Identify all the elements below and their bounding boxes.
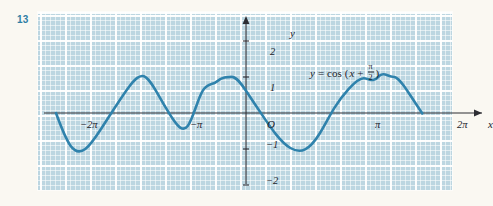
plot-area <box>38 12 452 190</box>
equation-fraction-numerator: π <box>368 63 374 71</box>
equation-equals: = <box>318 67 324 79</box>
y-tick-label-2: 2 <box>270 47 275 58</box>
equation-function: cos <box>327 67 342 79</box>
y-tick-label-neg-1: −1 <box>266 140 278 151</box>
y-axis-label: y <box>290 28 295 39</box>
equation-plus: + <box>357 67 363 79</box>
figure-number: 13 <box>17 14 29 25</box>
x-tick-label-neg-2pi: −2π <box>80 120 98 131</box>
equation-argument-variable: x <box>349 67 354 79</box>
y-tick-label-neg-2: −2 <box>266 176 278 187</box>
equation-annotation: y = cos ( x + π 2 ) <box>310 63 379 82</box>
equation-open-paren: ( <box>345 67 349 79</box>
x-tick-label-2pi: 2π <box>457 120 468 131</box>
y-tick-label-1: 1 <box>270 83 275 94</box>
graph-paper-panel: −2π −π π 2π O 2 1 −1 −2 y x y = cos ( x … <box>38 12 452 190</box>
equation-fraction-denominator: 2 <box>368 74 374 82</box>
equation-fraction: π 2 <box>368 63 374 82</box>
origin-label: O <box>267 119 275 130</box>
x-axis-arrowhead <box>474 110 482 117</box>
equation-lhs: y <box>310 67 315 79</box>
equation-close-paren: ) <box>376 67 380 79</box>
x-tick-label-neg-pi: −π <box>190 120 202 131</box>
x-axis-label: x <box>488 119 493 130</box>
y-axis-arrowhead <box>243 16 250 24</box>
x-tick-label-pi: π <box>375 120 380 131</box>
